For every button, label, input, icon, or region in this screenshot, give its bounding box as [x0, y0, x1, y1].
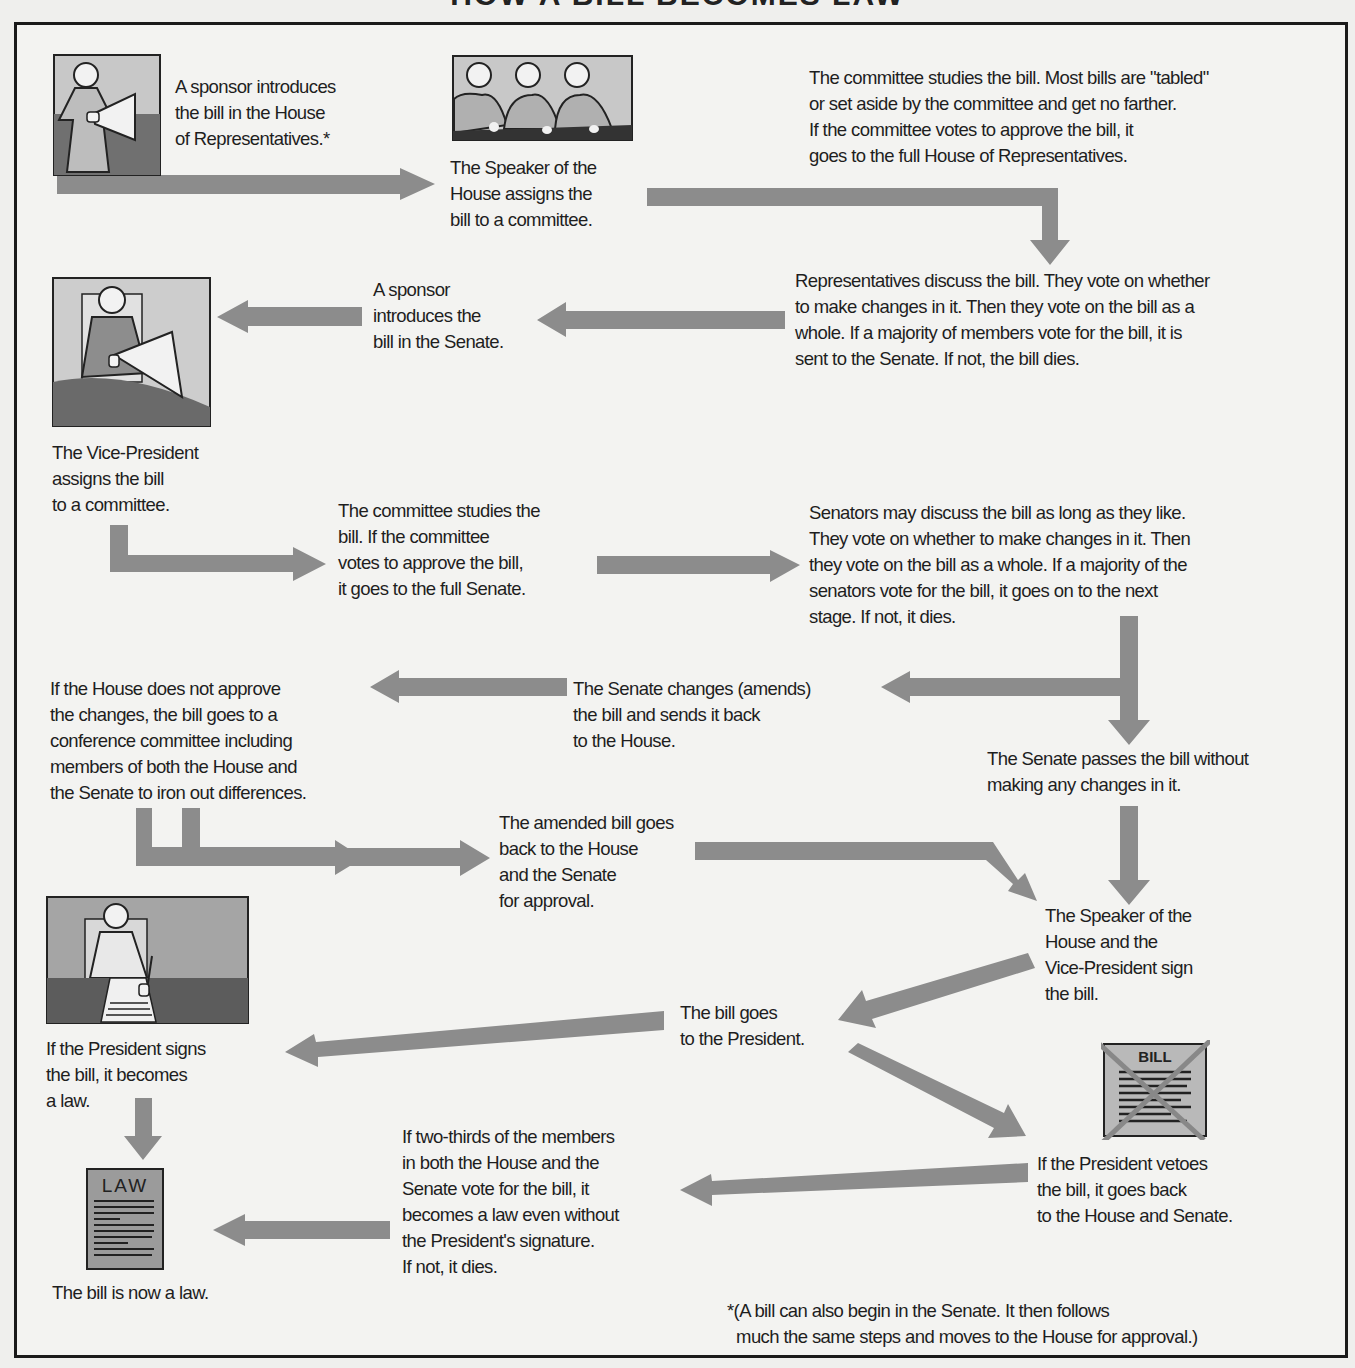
house-sponsor-icon	[53, 54, 161, 176]
step-president-signs: If the President signs the bill, it beco…	[46, 1036, 206, 1114]
president-signing-icon	[46, 896, 249, 1024]
committee-members-icon	[452, 55, 633, 141]
step-vp-assigns: The Vice-President assigns the bill to a…	[52, 440, 198, 518]
law-document-icon: LAW	[86, 1168, 164, 1270]
step-senate-committee: The committee studies the bill. If the c…	[338, 498, 540, 602]
law-label: LAW	[102, 1175, 148, 1196]
step-senate-sponsor: A sponsor introduces the bill in the Sen…	[373, 277, 504, 355]
step-senate-passes: The Senate passes the bill without makin…	[987, 746, 1248, 798]
step-leaders-sign: The Speaker of the House and the Vice-Pr…	[1045, 903, 1193, 1007]
step-house-vote: Representatives discuss the bill. They v…	[795, 268, 1210, 372]
step-conference: If the House does not approve the change…	[50, 676, 306, 806]
step-senate-amends: The Senate changes (amends) the bill and…	[573, 676, 811, 754]
footnote: *(A bill can also begin in the Senate. I…	[727, 1298, 1198, 1350]
step-house-committee: The committee studies the bill. Most bil…	[809, 65, 1209, 169]
step-now-law: The bill is now a law.	[52, 1280, 208, 1306]
step-house-sponsor: A sponsor introduces the bill in the Hou…	[175, 74, 336, 152]
vetoed-bill-icon: BILL	[1101, 1040, 1210, 1140]
step-senate-vote: Senators may discuss the bill as long as…	[809, 500, 1190, 630]
step-president-vetoes: If the President vetoes the bill, it goe…	[1037, 1151, 1232, 1229]
diagram-title: HOW A BILL BECOMES LAW	[0, 0, 1355, 8]
step-to-president: The bill goes to the President.	[680, 1000, 805, 1052]
vice-president-icon	[52, 277, 211, 427]
step-speaker-assigns: The Speaker of the House assigns the bil…	[450, 155, 597, 233]
bill-label: BILL	[1138, 1048, 1171, 1065]
step-override: If two-thirds of the members in both the…	[402, 1124, 619, 1280]
step-amended-back: The amended bill goes back to the House …	[499, 810, 674, 914]
